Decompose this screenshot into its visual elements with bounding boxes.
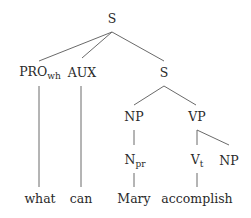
node-label: N xyxy=(124,152,135,167)
node-label: NP xyxy=(124,109,143,124)
edge-s-aux xyxy=(82,32,112,58)
node-v-t: Vt xyxy=(191,154,204,169)
node-subscript: pr xyxy=(135,159,145,169)
edge-s-pro xyxy=(39,32,112,61)
edge-s-vp xyxy=(164,86,196,105)
leaf-word: Mary xyxy=(117,191,150,206)
leaf-word: what xyxy=(24,191,55,206)
leaf-accomplish: accomplish xyxy=(161,193,232,206)
node-aux: AUX xyxy=(68,67,96,80)
node-vp: VP xyxy=(188,111,205,124)
edge-vp-np xyxy=(197,130,229,145)
syntax-tree: S PROwh AUX S NP VP Npr Vt NP what can M… xyxy=(0,0,251,218)
leaf-word: accomplish xyxy=(161,191,232,206)
leaf-what: what xyxy=(24,193,55,206)
edge-s-np xyxy=(134,86,164,105)
node-label: NP xyxy=(219,153,238,168)
node-pro-wh: PROwh xyxy=(19,66,61,81)
leaf-mary: Mary xyxy=(117,193,150,206)
leaf-can: can xyxy=(70,193,93,206)
node-label: S xyxy=(160,65,169,80)
node-label: AUX xyxy=(68,65,96,80)
leaf-word: can xyxy=(70,191,93,206)
node-np-subject: NP xyxy=(124,111,143,124)
edge-s-s xyxy=(112,32,164,61)
node-np-object: NP xyxy=(219,155,238,168)
node-label: S xyxy=(108,11,117,26)
node-label: V xyxy=(191,152,200,167)
node-s-root: S xyxy=(108,13,117,26)
node-subscript: wh xyxy=(47,71,61,81)
node-label: PRO xyxy=(19,64,47,79)
node-n-pr: Npr xyxy=(124,154,145,169)
node-subscript: t xyxy=(200,159,204,169)
node-label: VP xyxy=(188,109,205,124)
node-s-inner: S xyxy=(160,67,169,80)
